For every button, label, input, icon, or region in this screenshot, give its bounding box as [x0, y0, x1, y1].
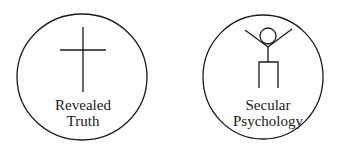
secular-psychology-group: Secular Psychology: [203, 15, 323, 139]
stick-figure-icon: [245, 28, 292, 88]
cross-icon: [60, 27, 106, 92]
revealed-truth-group: Revealed Truth: [17, 14, 147, 140]
revealed-truth-label-line2: Truth: [67, 113, 100, 129]
diagram-canvas: Revealed Truth Secular Psychology: [0, 0, 350, 148]
secular-psychology-label-line2: Psychology: [233, 113, 304, 129]
secular-psychology-label-line1: Secular: [246, 97, 291, 113]
revealed-truth-label-line1: Revealed: [55, 97, 111, 113]
